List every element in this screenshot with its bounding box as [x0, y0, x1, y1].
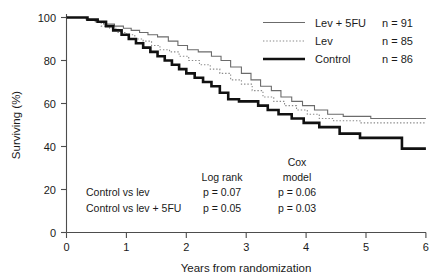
plot-area: 100 80 60 40 20 0 0 1 2 3 4 5 6 Survivin…	[0, 0, 440, 279]
y-tick-label-20: 20	[44, 184, 56, 196]
logrank-header: Log rank	[202, 171, 244, 183]
legend-label-lev: Lev	[315, 35, 333, 47]
x-tick-label-6: 6	[423, 241, 429, 253]
legend: Lev + 5FU Lev Control n = 91 n = 85 n = …	[263, 17, 413, 66]
stat-row-1-comparison: Control vs lev + 5FU	[86, 202, 181, 214]
x-axis-title: Years from randomization	[181, 262, 312, 274]
legend-label-lev-5fu: Lev + 5FU	[315, 17, 366, 29]
y-ticks: 100 80 60 40 20 0	[38, 12, 67, 239]
y-tick-label-80: 80	[44, 55, 56, 67]
legend-n-control: n = 86	[382, 53, 413, 65]
legend-label-control: Control	[315, 53, 350, 65]
x-tick-label-1: 1	[123, 241, 129, 253]
legend-n-lev: n = 85	[382, 35, 413, 47]
y-tick-label-0: 0	[50, 227, 56, 239]
curve-control	[67, 18, 426, 149]
curves	[67, 18, 426, 149]
survival-curve-figure: 100 80 60 40 20 0 0 1 2 3 4 5 6 Survivin…	[0, 0, 440, 279]
x-tick-label-4: 4	[303, 241, 309, 253]
stat-row-1-cox: p = 0.03	[278, 202, 316, 214]
stat-row-0-logrank: p = 0.07	[203, 186, 241, 198]
legend-n-lev-5fu: n = 91	[382, 17, 413, 29]
x-ticks: 0 1 2 3 4 5 6	[63, 233, 429, 254]
cox-header-line2: model	[283, 171, 312, 183]
y-tick-label-100: 100	[38, 12, 56, 24]
x-tick-label-3: 3	[243, 241, 249, 253]
y-tick-label-40: 40	[44, 141, 56, 153]
x-tick-label-2: 2	[183, 241, 189, 253]
stat-row-1-logrank: p = 0.05	[203, 202, 241, 214]
statistics-annotation: Cox model Log rank Control vs lev p = 0.…	[86, 156, 316, 214]
axes	[67, 14, 427, 233]
y-tick-label-60: 60	[44, 98, 56, 110]
cox-header-line1: Cox	[288, 156, 307, 168]
x-tick-label-5: 5	[363, 241, 369, 253]
stat-row-0-cox: p = 0.06	[278, 186, 316, 198]
y-axis-title: Surviving (%)	[10, 91, 22, 160]
stat-row-0-comparison: Control vs lev	[86, 186, 150, 198]
x-tick-label-0: 0	[63, 241, 69, 253]
